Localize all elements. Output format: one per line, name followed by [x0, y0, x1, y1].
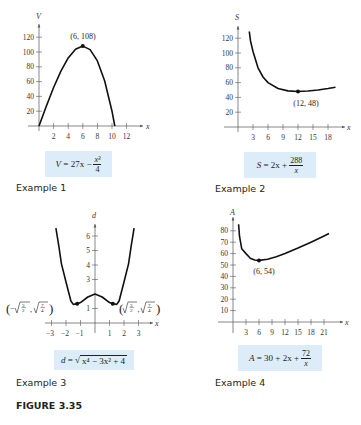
svg-text:3: 3: [251, 133, 255, 142]
formula-lhs: A: [249, 353, 255, 363]
y-tick-labels: 134 56: [86, 232, 90, 314]
fraction-numerator: 72: [301, 349, 311, 359]
svg-text:,: ,: [138, 305, 140, 314]
svg-text:100: 100: [222, 49, 234, 58]
svg-text:60: 60: [226, 78, 234, 87]
svg-text:4: 4: [86, 261, 90, 270]
min-point: [257, 258, 261, 262]
svg-text:12: 12: [123, 132, 131, 141]
svg-text:−1: −1: [76, 329, 84, 338]
min-point-right: [111, 302, 115, 306]
svg-text:6: 6: [266, 133, 270, 142]
chart-example-2: S x 369 121518 204060 80100120 (12, 48): [222, 13, 351, 142]
svg-text:1: 1: [108, 329, 112, 338]
formula-fraction: 72x: [301, 349, 311, 368]
y-axis-label: d: [92, 211, 97, 220]
svg-text:60: 60: [221, 249, 229, 258]
svg-text:2: 2: [130, 308, 133, 313]
min-point: [296, 90, 300, 94]
max-point-label: (6, 108): [70, 32, 96, 41]
y-axis-label: V: [36, 12, 42, 21]
svg-text:3: 3: [86, 275, 90, 284]
formula-fraction: 288x: [289, 156, 303, 175]
formula-example-4: A = 30 + 2x + 72x: [238, 345, 322, 371]
caption-example-2: Example 2: [215, 183, 265, 194]
x-tick-labels: 369 121518: [251, 133, 332, 142]
x-tick-labels: −3−2−1 123: [46, 329, 141, 338]
fraction-numerator: x³: [93, 155, 101, 165]
svg-text:10: 10: [221, 306, 229, 315]
chart-example-3: d x −3−2−1 123 134 56 ( − 32: [6, 211, 160, 338]
svg-text:12: 12: [294, 133, 302, 142]
svg-text:80: 80: [221, 226, 229, 235]
formula-lhs: V: [56, 159, 62, 169]
svg-text:1: 1: [86, 304, 90, 313]
x-axis-label: x: [346, 123, 351, 132]
y-tick-labels: 204060 80100120: [222, 34, 234, 117]
chart-example-4: A x 369 12151821 102030 405060 7080 (6, …: [218, 208, 349, 337]
formula-lhs: S: [257, 160, 262, 170]
svg-text:10: 10: [108, 132, 116, 141]
svg-text:60: 60: [27, 77, 35, 86]
caption-example-3: Example 3: [16, 377, 66, 388]
svg-text:9: 9: [270, 328, 274, 337]
radicand: x⁴ − 3x² + 4: [80, 355, 127, 366]
y-tick-labels: 204060 80100120: [23, 33, 35, 116]
svg-text:80: 80: [27, 62, 35, 71]
svg-text:7: 7: [41, 303, 44, 308]
svg-text:6: 6: [257, 328, 261, 337]
x-axis-label: x: [154, 319, 159, 328]
svg-text:2: 2: [22, 308, 25, 313]
caption-example-4: Example 4: [215, 377, 265, 388]
svg-text:−2: −2: [61, 329, 69, 338]
y-tick-labels: 102030 405060 7080: [221, 226, 229, 315]
svg-text:18: 18: [324, 133, 332, 142]
svg-text:120: 120: [222, 34, 234, 43]
svg-text:40: 40: [221, 272, 229, 281]
formula-rhs: = 30 + 2x +: [257, 353, 299, 363]
svg-text:120: 120: [23, 33, 35, 42]
svg-text:21: 21: [320, 328, 328, 337]
svg-text:7: 7: [148, 303, 151, 308]
svg-text:30: 30: [221, 283, 229, 292]
svg-text:4: 4: [66, 132, 70, 141]
x-tick-labels: 369 12151821: [244, 328, 328, 337]
svg-text:12: 12: [281, 328, 289, 337]
formula-fraction: x³4: [93, 155, 101, 174]
svg-text:3: 3: [137, 329, 141, 338]
svg-text:(: (: [119, 301, 123, 316]
svg-text:−3: −3: [46, 329, 54, 338]
svg-text:20: 20: [27, 107, 35, 116]
formula-example-3: d = √x⁴ − 3x² + 4: [54, 350, 134, 370]
svg-text:,: ,: [30, 305, 32, 314]
curve-s: [249, 32, 335, 92]
x-axis-label: x: [344, 318, 349, 327]
svg-text:20: 20: [226, 108, 234, 117]
min-point-left: [75, 302, 79, 306]
min-point-label: (12, 48): [293, 99, 319, 108]
svg-text:20: 20: [221, 295, 229, 304]
fraction-denominator: x: [294, 166, 298, 175]
curve-v: [39, 46, 115, 126]
svg-text:5: 5: [86, 246, 90, 255]
svg-text:8: 8: [96, 132, 100, 141]
svg-text:100: 100: [23, 48, 35, 57]
svg-text:−: −: [10, 304, 15, 313]
svg-text:70: 70: [221, 238, 229, 247]
fraction-numerator: 288: [289, 156, 303, 166]
svg-text:15: 15: [309, 133, 317, 142]
svg-text:): ): [156, 301, 160, 316]
caption-example-1: Example 1: [16, 182, 66, 193]
svg-text:6: 6: [86, 232, 90, 241]
svg-text:6: 6: [81, 132, 85, 141]
y-axis-label: A: [229, 208, 235, 217]
y-axis-label: S: [235, 13, 239, 22]
svg-text:40: 40: [27, 92, 35, 101]
min-point-right-label: ( 32 , 74 ): [119, 301, 160, 316]
max-point: [81, 44, 85, 48]
figure-label: FIGURE 3.35: [16, 400, 82, 411]
svg-text:3: 3: [22, 303, 25, 308]
svg-text:3: 3: [130, 303, 133, 308]
x-axis-label: x: [145, 122, 150, 131]
chart-example-1: V x 246 81012 204060 80100120 (6, 108): [23, 12, 150, 141]
